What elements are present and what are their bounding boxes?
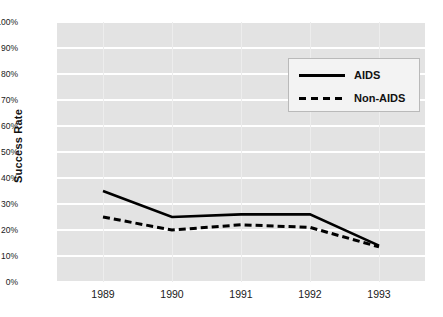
y-tick-label-90%: 90% [0, 43, 18, 53]
x-tick-label-1993: 1993 [349, 288, 409, 300]
x-tick-label-1990: 1990 [142, 288, 202, 300]
legend-label-non-aids: Non-AIDS [354, 92, 405, 104]
y-axis-title: Success Rate [12, 91, 24, 201]
y-tick-label-60%: 60% [0, 121, 18, 131]
legend-solid-line-icon [299, 68, 345, 82]
y-tick-label-10%: 10% [0, 251, 18, 261]
legend-item-aids: AIDS [289, 64, 419, 86]
series-line-non-aids [103, 217, 379, 247]
x-tick-label-1989: 1989 [73, 288, 133, 300]
legend-label-aids: AIDS [354, 69, 380, 81]
y-tick-label-80%: 80% [0, 69, 18, 79]
legend-item-non-aids: Non-AIDS [289, 87, 419, 109]
x-tick-label-1991: 1991 [211, 288, 271, 300]
line-chart-figure: Success Rate 0%10%20%30%40%50%60%70%80%9… [0, 0, 443, 317]
chart-legend: AIDS Non-AIDS [288, 58, 420, 112]
y-tick-label-100%: 100% [0, 17, 18, 27]
y-tick-label-70%: 70% [0, 95, 18, 105]
series-line-aids [103, 191, 379, 246]
legend-dashed-line-icon [299, 91, 345, 105]
y-tick-label-30%: 30% [0, 199, 18, 209]
y-tick-label-0%: 0% [0, 277, 18, 287]
y-tick-label-40%: 40% [0, 173, 18, 183]
y-tick-label-50%: 50% [0, 147, 18, 157]
y-tick-label-20%: 20% [0, 225, 18, 235]
x-tick-label-1992: 1992 [280, 288, 340, 300]
